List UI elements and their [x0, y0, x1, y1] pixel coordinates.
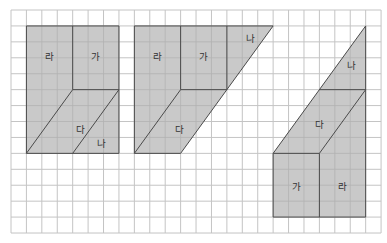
piece-label: 나 — [246, 33, 255, 44]
piece-label: 라 — [45, 51, 54, 62]
piece-label: 라 — [338, 181, 347, 192]
piece-label: 가 — [91, 51, 100, 62]
piece-label: 라 — [153, 51, 162, 62]
grid-figure: 라가다나라가나다나다가라 — [0, 0, 387, 243]
piece-label: 가 — [292, 181, 301, 192]
piece-label: 다 — [175, 124, 184, 135]
piece-label: 다 — [76, 124, 85, 135]
piece-label: 다 — [315, 119, 324, 130]
piece-label: 나 — [97, 138, 106, 149]
piece-label: 나 — [347, 60, 356, 71]
piece-label: 가 — [199, 51, 208, 62]
